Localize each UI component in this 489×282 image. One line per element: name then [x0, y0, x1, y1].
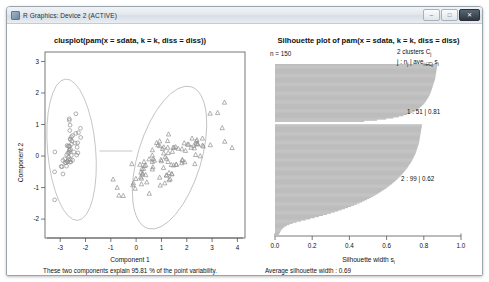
svg-text:0: 0	[134, 244, 138, 251]
clusplot-panel: clusplot(pam(x = sdata, k = k, diss = di…	[7, 24, 253, 275]
svg-text:0.6: 0.6	[382, 242, 391, 249]
clusters-count-text: 2 clusters C	[397, 48, 430, 55]
svg-text:-3: -3	[57, 244, 63, 251]
cluster-1-label: 1 : 51 | 0.81	[407, 108, 440, 115]
svg-text:0.2: 0.2	[308, 242, 317, 249]
clusplot-footnote: These two components explain 95.81 % of …	[7, 267, 253, 274]
svg-text:3: 3	[35, 58, 39, 65]
silhouette-xlabel-sub: i	[394, 260, 395, 265]
svg-text:0.4: 0.4	[345, 242, 354, 249]
legend-ave: | ave	[408, 58, 423, 65]
title-bar[interactable]: R Graphics: Device 2 (ACTIVE) – □ ✕	[7, 7, 482, 24]
silhouette-x-axis-label: Silhouette width si	[253, 256, 483, 265]
svg-text:-1: -1	[108, 244, 114, 251]
silhouette-clusters-label: 2 clusters Cj	[397, 48, 431, 57]
silhouette-footnote: Average silhouette width : 0.69	[265, 267, 351, 274]
clusplot-figure: -3-2-1012343210-1-2	[7, 24, 253, 275]
silhouette-title: Silhouette plot of pam(x = sdata, k = k,…	[253, 36, 483, 45]
close-button[interactable]: ✕	[459, 9, 480, 21]
graphics-canvas: clusplot(pam(x = sdata, k = k, diss = di…	[7, 24, 482, 275]
clusplot-y-axis-label: Component 2	[17, 128, 24, 198]
silhouette-figure: 0.00.20.40.60.81.0	[253, 24, 483, 275]
svg-text:-1: -1	[33, 184, 39, 191]
svg-text:2: 2	[185, 244, 189, 251]
clusters-subscript: j	[430, 52, 431, 57]
svg-text:1: 1	[160, 244, 164, 251]
svg-text:2: 2	[35, 89, 39, 96]
svg-text:-2: -2	[33, 215, 39, 222]
r-graphics-icon	[11, 11, 20, 20]
maximize-button[interactable]: □	[441, 9, 458, 21]
svg-text:-2: -2	[83, 244, 89, 251]
svg-text:1: 1	[35, 121, 39, 128]
clusplot-title: clusplot(pam(x = sdata, k = k, diss = di…	[7, 36, 253, 45]
svg-text:0.8: 0.8	[419, 242, 428, 249]
svg-text:1.0: 1.0	[457, 242, 466, 249]
silhouette-xlabel-text: Silhouette width s	[342, 256, 394, 263]
minimize-button[interactable]: –	[423, 9, 440, 21]
clusplot-x-axis-label: Component 1	[7, 256, 253, 263]
cluster-2-label: 2 : 99 | 0.62	[401, 175, 434, 182]
silhouette-legend-line: j : nj | avei∈Cj si	[397, 58, 439, 67]
window-title: R Graphics: Device 2 (ACTIVE)	[23, 12, 117, 19]
svg-text:0.0: 0.0	[271, 242, 280, 249]
legend-j-n: j : n	[397, 58, 407, 65]
window-controls: – □ ✕	[423, 9, 480, 21]
legend-sub-icj: i∈Cj	[423, 62, 432, 67]
silhouette-panel: Silhouette plot of pam(x = sdata, k = k,…	[253, 24, 483, 275]
r-graphics-window: R Graphics: Device 2 (ACTIVE) – □ ✕ clus…	[6, 6, 483, 276]
legend-sub-i: i	[438, 62, 439, 67]
svg-text:0: 0	[35, 152, 39, 159]
silhouette-n-label: n = 150	[270, 50, 291, 57]
svg-text:3: 3	[210, 244, 214, 251]
svg-text:4: 4	[236, 244, 240, 251]
